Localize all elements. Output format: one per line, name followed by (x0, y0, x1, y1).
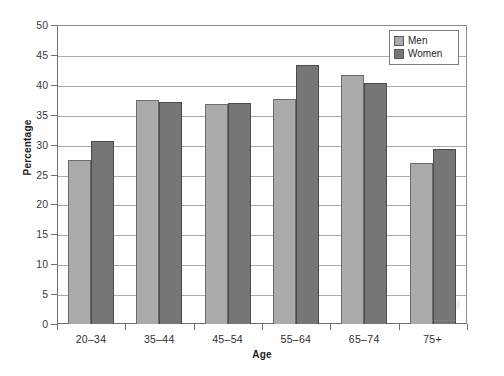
x-tick (194, 324, 195, 330)
x-axis-title: Age (57, 349, 467, 360)
bar-group (262, 25, 330, 324)
legend-label-men: Men (408, 36, 427, 46)
legend-label-women: Women (408, 49, 442, 59)
bar-group (399, 25, 467, 324)
bar-women[interactable] (159, 102, 182, 324)
bar-men[interactable] (273, 99, 296, 324)
y-tick-label-15: 15 (22, 229, 48, 240)
bar-chart-figure: 50 45 40 35 30 25 20 15 10 5 0 (0, 0, 504, 376)
bar-women[interactable] (364, 83, 387, 324)
y-tick-label-40: 40 (22, 80, 48, 91)
bar-series-container (57, 25, 467, 324)
bar-group (194, 25, 262, 324)
bar-men[interactable] (136, 100, 159, 324)
x-tick (125, 324, 126, 330)
bar-men[interactable] (205, 104, 228, 324)
y-tick-label-20: 20 (22, 199, 48, 210)
bar-men[interactable] (410, 163, 433, 324)
bar-men[interactable] (341, 75, 364, 324)
x-tick (399, 324, 400, 330)
bar-women[interactable] (296, 65, 319, 324)
bar-women[interactable] (433, 149, 456, 324)
x-tick-label-45-54: 45–54 (194, 333, 262, 345)
bar-group (57, 25, 125, 324)
bar-group (125, 25, 193, 324)
x-tick-label-35-44: 35–44 (125, 333, 193, 345)
y-tick-label-5: 5 (22, 289, 48, 300)
legend-swatch-men-icon (394, 36, 404, 46)
legend: Men Women (389, 30, 459, 65)
x-tick (262, 324, 263, 330)
x-tick-label-75-plus: 75+ (399, 333, 467, 345)
y-tick-label-0: 0 (22, 319, 48, 330)
x-tick-label-20-34: 20–34 (57, 333, 125, 345)
y-tick-label-45: 45 (22, 50, 48, 61)
x-tick (57, 324, 58, 330)
legend-swatch-women-icon (394, 49, 404, 59)
bar-women[interactable] (228, 103, 251, 324)
bar-women[interactable] (91, 141, 114, 324)
legend-item-men[interactable]: Men (394, 34, 454, 47)
x-tick-label-55-64: 55–64 (262, 333, 330, 345)
bar-men[interactable] (68, 160, 91, 324)
y-axis-title: Percentage (22, 103, 33, 193)
x-tick (330, 324, 331, 330)
y-tick-label-50: 50 (22, 20, 48, 31)
x-tick (467, 324, 468, 330)
bar-group (330, 25, 398, 324)
y-tick-label-10: 10 (22, 259, 48, 270)
legend-item-women[interactable]: Women (394, 47, 454, 60)
x-tick-label-65-74: 65–74 (330, 333, 398, 345)
